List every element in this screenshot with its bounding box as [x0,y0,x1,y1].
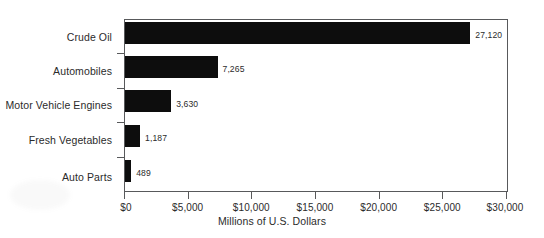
y-axis-tick [117,157,124,158]
bar-crude-oil [125,22,470,44]
x-axis-tick [506,192,507,199]
category-label-fresh-vegetables: Fresh Vegetables [29,134,112,146]
x-axis-tick [251,192,252,199]
bar-chart: Crude Oil Automobiles Motor Vehicle Engi… [0,0,544,238]
bar-value-motor-vehicle-engines: 3,630 [176,99,198,109]
y-axis-tick [117,53,124,54]
x-axis-tick [442,192,443,199]
bar-value-auto-parts: 489 [136,168,151,178]
y-axis-tick [117,88,124,89]
bar-fresh-vegetables [125,125,140,147]
x-axis-tick [124,192,125,199]
paper-smudge [10,180,70,210]
x-axis-label-0: $0 [120,202,131,214]
x-axis-label-30000: $30,000 [487,202,524,214]
y-axis-tick [117,122,124,123]
x-axis-tick [315,192,316,199]
bar-value-crude-oil: 27,120 [475,30,502,40]
category-label-automobiles: Automobiles [53,65,112,77]
category-label-motor-vehicle-engines: Motor Vehicle Engines [5,99,112,111]
bar-value-fresh-vegetables: 1,187 [145,133,167,143]
x-axis-label-25000: $25,000 [424,202,461,214]
x-axis-label-20000: $20,000 [360,202,397,214]
x-axis-label-10000: $10,000 [233,202,270,214]
x-axis-tick [188,192,189,199]
category-label-auto-parts: Auto Parts [62,171,112,183]
bar-automobiles [125,56,218,78]
category-label-crude-oil: Crude Oil [67,31,112,43]
bar-value-automobiles: 7,265 [223,64,245,74]
bar-auto-parts [125,160,131,182]
x-axis-title: Millions of U.S. Dollars [0,215,544,228]
x-axis-label-15000: $15,000 [297,202,334,214]
x-axis-tick [379,192,380,199]
bar-motor-vehicle-engines [125,90,171,112]
x-axis-label-5000: $5,000 [172,202,203,214]
